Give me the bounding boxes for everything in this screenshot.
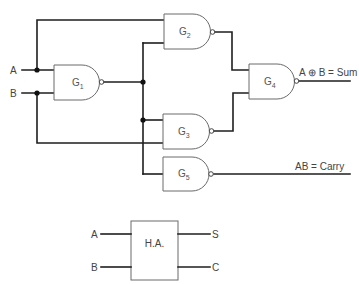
inverter-bubble xyxy=(209,129,214,134)
wire-g3-to-g4 xyxy=(214,93,249,131)
half-adder-box xyxy=(131,221,178,280)
gate-g1: G1 xyxy=(54,65,104,100)
inverter-bubble xyxy=(99,80,104,85)
junction-dot-g1-out xyxy=(140,79,145,84)
carry-output-label: AB = Carry xyxy=(295,161,344,172)
half-adder-block: A B S C H.A. xyxy=(91,221,219,280)
block-input-label-b: B xyxy=(91,262,98,273)
junction-dot-a xyxy=(34,67,39,72)
sum-output-label: A ⊕ B = Sum xyxy=(299,67,357,78)
block-output-label-c: C xyxy=(212,262,219,273)
input-label-a: A xyxy=(10,65,17,76)
wire-g2-to-g4 xyxy=(214,32,249,70)
block-input-label-a: A xyxy=(91,229,98,240)
inverter-bubble xyxy=(294,79,299,84)
inverter-bubble xyxy=(210,30,215,35)
junction-dot-g3-in xyxy=(140,117,145,122)
block-output-label-s: S xyxy=(212,229,219,240)
gate-g2: G2 xyxy=(164,14,215,49)
junction-dot-b xyxy=(34,90,39,95)
block-title: H.A. xyxy=(145,238,164,249)
gate-g3: G3 xyxy=(163,114,214,149)
inverter-bubble xyxy=(209,172,214,177)
half-adder-diagram: G1 G2 G3 G4 G5 A B A ⊕ B = Sum AB = Carr… xyxy=(0,0,359,284)
gate-g5: G5 xyxy=(163,157,213,191)
wire-a-to-g2 xyxy=(37,20,164,70)
gate-g4: G4 xyxy=(249,64,299,99)
input-label-b: B xyxy=(10,88,17,99)
